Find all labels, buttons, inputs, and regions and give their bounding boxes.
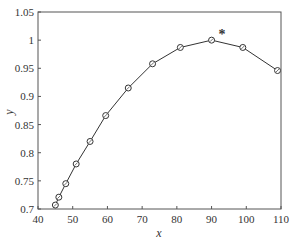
plot-frame — [38, 12, 281, 209]
x-tick-label: 80 — [171, 213, 183, 225]
x-tick-label: 110 — [273, 213, 290, 225]
y-tick-label: 0.8 — [20, 147, 34, 159]
y-tick-label: 0.9 — [20, 90, 34, 102]
y-axis-label: y — [2, 109, 16, 116]
y-tick-label: 1.05 — [15, 6, 35, 18]
y-tick-label: 1 — [29, 34, 35, 46]
x-tick-label: 60 — [102, 213, 114, 225]
series-line — [55, 40, 277, 205]
data-series: * — [52, 27, 280, 208]
y-tick-label: 0.75 — [15, 175, 35, 187]
y-tick-label: 0.85 — [15, 119, 35, 131]
star-marker-icon: * — [218, 27, 225, 42]
x-tick-label: 40 — [33, 213, 45, 225]
x-tick-label: 100 — [238, 213, 255, 225]
y-tick-label: 0.95 — [15, 62, 35, 74]
plot-border — [38, 12, 281, 209]
x-tick-label: 90 — [206, 213, 218, 225]
y-axis-ticks: 0.70.750.80.850.90.9511.05 — [15, 6, 41, 215]
x-tick-label: 70 — [137, 213, 149, 225]
x-tick-label: 50 — [67, 213, 79, 225]
line-chart: 0.70.750.80.850.90.9511.05 4050607080901… — [0, 0, 291, 246]
x-axis-label: x — [155, 226, 162, 240]
